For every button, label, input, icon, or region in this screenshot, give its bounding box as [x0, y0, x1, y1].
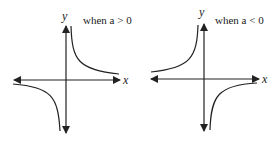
- y-axis-label: y: [198, 5, 205, 19]
- y-axis-label: y: [61, 9, 68, 23]
- x-axis-label: x: [122, 73, 129, 87]
- graph-a-positive: y x when a > 0: [13, 9, 132, 133]
- graph-a-negative: y x when a < 0: [151, 5, 268, 131]
- condition-label: when a > 0: [83, 14, 132, 26]
- hyperbola-branch: [71, 26, 119, 74]
- hyperbola-branch: [13, 84, 60, 131]
- hyperbola-branch: [210, 83, 257, 130]
- condition-label: when a < 0: [215, 14, 264, 26]
- x-axis-label: x: [261, 72, 268, 86]
- hyperbola-branch: [151, 25, 198, 72]
- hyperbola-diagram: y x when a > 0 y x when a < 0: [0, 0, 276, 143]
